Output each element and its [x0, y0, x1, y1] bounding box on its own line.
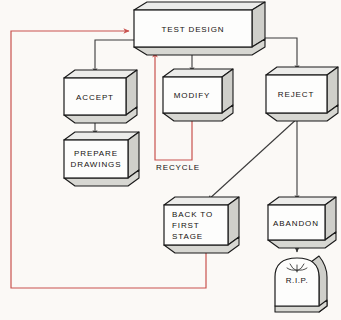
flowchart-canvas: TEST DESIGN ACCEPT MODIFY REJECT [0, 0, 341, 320]
accept-top-face [64, 70, 137, 78]
node-rip-tombstone[interactable]: R.I.P. [275, 256, 327, 312]
flowchart-svg: TEST DESIGN ACCEPT MODIFY REJECT [0, 0, 341, 320]
rip-label: R.I.P. [286, 276, 309, 285]
node-test-design[interactable]: TEST DESIGN [134, 2, 265, 55]
edge-reject-to-back-to-first-stage [208, 117, 299, 200]
prepare-drawings-front-face [64, 140, 128, 178]
accept-label: ACCEPT [76, 93, 114, 102]
abandon-label: ABANDON [273, 219, 319, 228]
test-design-label: TEST DESIGN [161, 25, 224, 34]
node-back-to-first-stage[interactable]: BACK TO FIRST STAGE [164, 197, 239, 253]
back-to-first-stage-label-line-3: STAGE [172, 232, 203, 241]
node-accept[interactable]: ACCEPT [64, 70, 137, 123]
node-reject[interactable]: REJECT [266, 67, 338, 121]
node-prepare-drawings[interactable]: PREPARE DRAWINGS [64, 132, 139, 186]
back-to-first-stage-label-line-1: BACK TO [172, 210, 213, 219]
test-design-top-face [134, 2, 265, 10]
modify-label: MODIFY [174, 91, 211, 100]
modify-top-face [163, 69, 233, 77]
reject-top-face [266, 67, 338, 75]
node-abandon[interactable]: ABANDON [268, 197, 336, 248]
node-modify[interactable]: MODIFY [163, 69, 233, 121]
prepare-drawings-label-line-1: PREPARE [74, 149, 118, 158]
prepare-drawings-label-line-2: DRAWINGS [71, 160, 122, 169]
prepare-drawings-top-face [64, 132, 139, 140]
reject-label: REJECT [278, 90, 315, 99]
back-to-first-stage-top-face [164, 197, 239, 205]
back-to-first-stage-label-line-2: FIRST [172, 221, 200, 230]
recycle-caption: RECYCLE [156, 163, 200, 172]
